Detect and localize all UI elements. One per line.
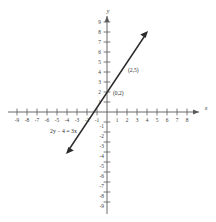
x-tick-label: 8: [186, 117, 189, 123]
y-tick-label: 6: [98, 49, 101, 55]
x-tick-label: 2: [126, 117, 129, 123]
x-tick-label: -5: [55, 117, 60, 123]
x-tick-label: -1: [95, 117, 100, 123]
y-tick-label: -9: [100, 203, 105, 209]
y-tick-label: 5: [98, 59, 101, 65]
y-tick-label: 7: [98, 39, 101, 45]
y-tick-label: 3: [98, 79, 101, 85]
y-tick-label: -3: [100, 143, 105, 149]
line-arrow-down-icon: [66, 147, 74, 154]
x-tick-label: -7: [35, 117, 40, 123]
y-tick-labels: 9 8 7 6 5 4 3 2 1 -1 -2 -3 -4 -5 -6 -7 -…: [98, 19, 104, 209]
y-tick-label: -8: [100, 193, 105, 199]
x-axis-arrow-icon: [193, 110, 199, 115]
point-label-second: (2,5): [128, 67, 139, 74]
y-tick-label: 9: [98, 19, 101, 25]
y-axis-label: y: [106, 8, 110, 14]
line-arrow-up-icon: [140, 31, 148, 38]
y-tick-label: -4: [100, 153, 105, 159]
y-tick-label: -7: [100, 183, 105, 189]
x-tick-label: 1: [116, 117, 119, 123]
y-tick-label: -2: [100, 133, 105, 139]
x-tick-label: 4: [146, 117, 149, 123]
equation-label: 2y − 4 = 3x: [50, 128, 77, 134]
x-tick-label: 6: [166, 117, 169, 123]
y-tick-label: 4: [98, 69, 101, 75]
x-tick-label: -9: [15, 117, 20, 123]
y-tick-label: 8: [98, 29, 101, 35]
y-tick-label: -5: [100, 163, 105, 169]
y-tick-label: -6: [100, 173, 105, 179]
plot-area: -9 -8 -7 -6 -5 -4 -3 -2 -1 1 2 3 4 5 6 7…: [0, 0, 216, 222]
x-tick-label: 3: [136, 117, 139, 123]
x-tick-label: -4: [65, 117, 70, 123]
x-tick-label: -3: [75, 117, 80, 123]
y-tick-label: 2: [98, 89, 101, 95]
x-tick-labels: -9 -8 -7 -6 -5 -4 -3 -2 -1 1 2 3 4 5 6 7…: [15, 117, 189, 123]
x-axis-label: x: [204, 105, 208, 111]
point-label-intercept: (0,2): [113, 90, 124, 97]
y-axis-group: [105, 16, 110, 214]
x-tick-label: 5: [156, 117, 159, 123]
x-tick-label: -6: [45, 117, 50, 123]
x-tick-label: 7: [176, 117, 179, 123]
y-axis-arrow-icon: [105, 16, 110, 22]
coordinate-graph: -9 -8 -7 -6 -5 -4 -3 -2 -1 1 2 3 4 5 6 7…: [0, 0, 216, 222]
y-tick-label: -1: [100, 123, 105, 129]
x-tick-label: -8: [25, 117, 30, 123]
